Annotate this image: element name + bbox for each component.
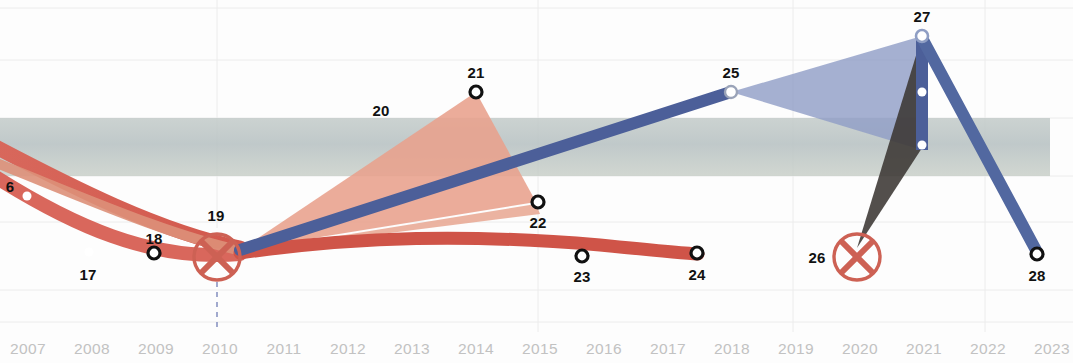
node-label-25: 25 (722, 64, 739, 81)
marker-node-19[interactable] (194, 234, 240, 280)
marker-node-23[interactable] (576, 250, 588, 262)
x-tick-2011: 2011 (267, 340, 302, 358)
marker-node-24[interactable] (691, 247, 703, 259)
marker-node-6[interactable] (23, 192, 32, 201)
x-tick-2013: 2013 (394, 340, 430, 358)
x-tick-2020: 2020 (842, 340, 878, 358)
node-label-22: 22 (529, 214, 546, 231)
node-label-20: 20 (372, 102, 389, 119)
marker-node-25[interactable] (725, 86, 737, 98)
red-trend-line (240, 238, 698, 254)
x-tick-2023: 2023 (1034, 340, 1070, 358)
node-label-19: 19 (207, 207, 224, 224)
x-tick-2022: 2022 (970, 340, 1006, 358)
marker-node-21[interactable] (470, 86, 482, 98)
x-tick-2018: 2018 (714, 340, 750, 358)
node-label-6: 6 (6, 178, 15, 195)
x-tick-2017: 2017 (650, 340, 686, 358)
x-axis-tick-labels: 2007200820092010201120122013201420152016… (0, 336, 1073, 363)
node-label-21: 21 (467, 64, 484, 81)
bar-dot-upper (918, 88, 927, 97)
node-label-17: 17 (79, 266, 96, 283)
node-label-27: 27 (913, 8, 930, 25)
node-label-24: 24 (688, 266, 705, 283)
x-tick-2014: 2014 (458, 340, 494, 358)
x-tick-2015: 2015 (522, 340, 558, 358)
marker-node-17[interactable] (85, 248, 94, 257)
node-label-18: 18 (145, 230, 162, 247)
marker-node-22[interactable] (532, 196, 544, 208)
marker-node-27[interactable] (916, 30, 928, 42)
marker-node-26[interactable] (834, 234, 880, 280)
node-label-26: 26 (808, 249, 825, 266)
x-tick-2012: 2012 (330, 340, 366, 358)
x-tick-2010: 2010 (202, 340, 238, 358)
marker-node-18[interactable] (148, 247, 160, 259)
chart-canvas: 6 17 18 19 20 21 22 23 24 25 26 27 28 20… (0, 0, 1073, 363)
x-tick-2007: 2007 (10, 340, 46, 358)
x-tick-2019: 2019 (778, 340, 814, 358)
node-label-23: 23 (573, 268, 590, 285)
x-tick-2021: 2021 (906, 340, 942, 358)
marker-node-28[interactable] (1031, 248, 1043, 260)
x-tick-2016: 2016 (586, 340, 622, 358)
bar-dot-lower (918, 141, 927, 150)
node-label-28: 28 (1028, 267, 1045, 284)
chart-plot-area (0, 0, 1073, 363)
x-tick-2009: 2009 (138, 340, 174, 358)
x-tick-2008: 2008 (74, 340, 110, 358)
